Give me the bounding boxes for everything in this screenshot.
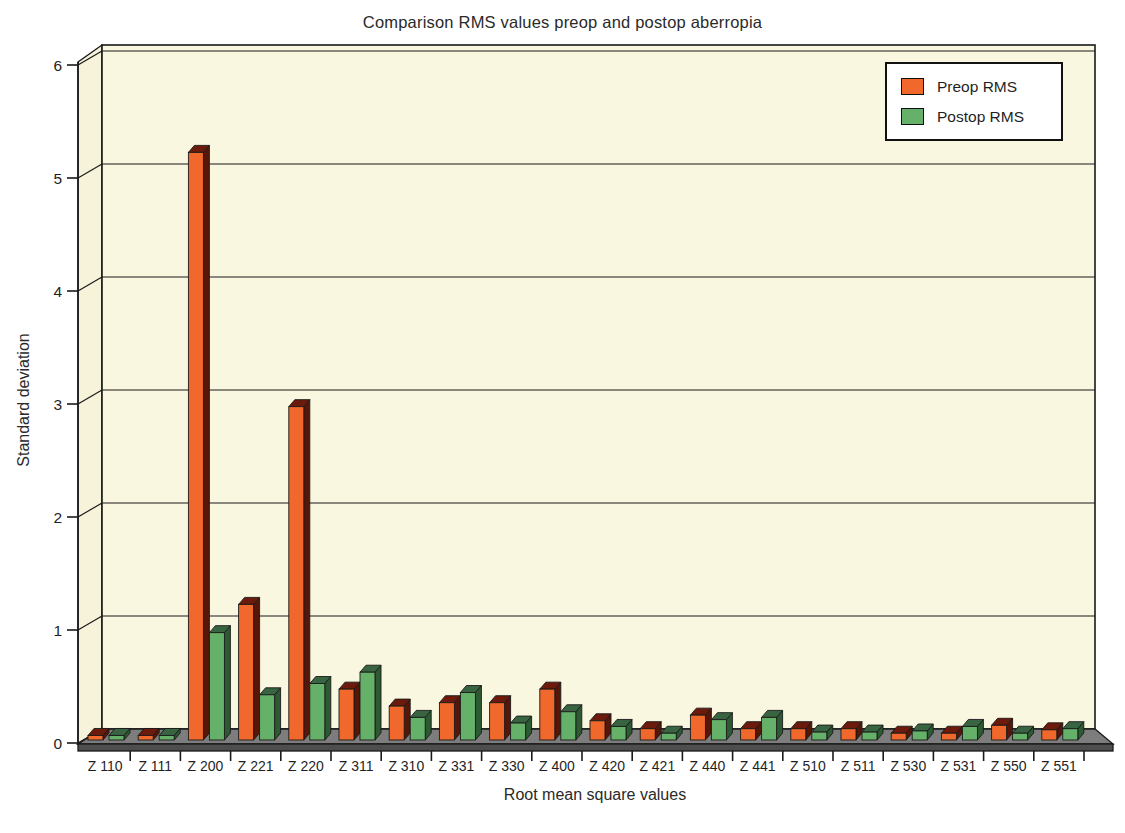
svg-text:Z 511: Z 511 xyxy=(841,758,876,774)
svg-text:Z 420: Z 420 xyxy=(589,758,625,774)
svg-text:0: 0 xyxy=(53,735,62,752)
svg-text:Z 530: Z 530 xyxy=(890,758,926,774)
x-axis-title: Root mean square values xyxy=(395,786,795,804)
postop-swatch-icon xyxy=(901,108,924,125)
legend-item-preop: Preop RMS xyxy=(901,78,1061,96)
svg-text:3: 3 xyxy=(53,396,62,413)
svg-text:Z 220: Z 220 xyxy=(288,758,324,774)
svg-text:Z 441: Z 441 xyxy=(740,758,776,774)
svg-text:6: 6 xyxy=(53,57,62,74)
y-axis-title: Standard deviation xyxy=(15,300,35,500)
svg-text:Z 111: Z 111 xyxy=(138,758,172,774)
svg-text:Z 510: Z 510 xyxy=(790,758,826,774)
svg-text:5: 5 xyxy=(53,170,62,187)
legend-label-preop: Preop RMS xyxy=(937,78,1017,96)
plot-wall xyxy=(78,45,102,744)
svg-text:Z 400: Z 400 xyxy=(539,758,575,774)
svg-text:Z 550: Z 550 xyxy=(991,758,1027,774)
legend: Preop RMS Postop RMS xyxy=(885,62,1063,141)
y-axis-ticks xyxy=(67,65,78,743)
svg-text:Z 310: Z 310 xyxy=(388,758,424,774)
svg-text:2: 2 xyxy=(53,509,62,526)
svg-text:Z 221: Z 221 xyxy=(238,758,274,774)
svg-text:Z 331: Z 331 xyxy=(439,758,475,774)
svg-text:Z 200: Z 200 xyxy=(188,758,224,774)
svg-text:Z 311: Z 311 xyxy=(339,758,374,774)
y-tick-labels: 0123456 xyxy=(53,57,62,752)
svg-text:Z 330: Z 330 xyxy=(489,758,525,774)
legend-label-postop: Postop RMS xyxy=(937,108,1024,126)
svg-text:4: 4 xyxy=(53,283,62,300)
svg-text:Z 531: Z 531 xyxy=(941,758,977,774)
svg-text:Z 440: Z 440 xyxy=(690,758,726,774)
legend-item-postop: Postop RMS xyxy=(901,108,1061,126)
chart-canvas: Comparison RMS values preop and postop a… xyxy=(0,0,1125,833)
preop-swatch-icon xyxy=(901,78,924,95)
svg-text:Z 551: Z 551 xyxy=(1041,758,1077,774)
svg-text:Z 421: Z 421 xyxy=(639,758,675,774)
svg-text:1: 1 xyxy=(53,622,62,639)
svg-text:Z 110: Z 110 xyxy=(88,758,123,774)
